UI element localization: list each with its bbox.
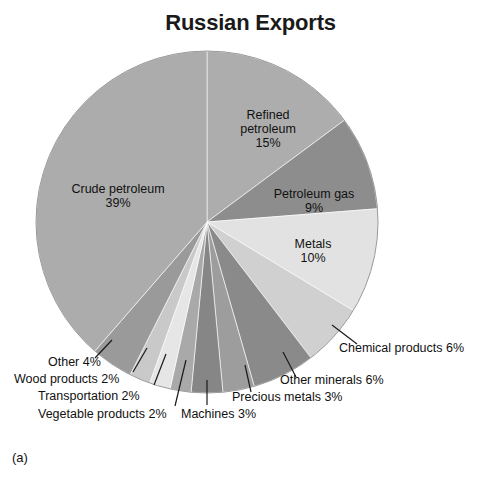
callout-label-transportation: Transportation 2% — [38, 389, 140, 403]
callout-label-precious-metals: Precious metals 3% — [232, 390, 342, 404]
slice-label-refined-petroleum-line2: petroleum — [240, 122, 296, 136]
slice-value-metals: 10% — [300, 251, 325, 265]
slice-value-crude-petroleum: 39% — [105, 196, 130, 210]
callout-label-machines: Machines 3% — [181, 407, 256, 421]
callout-label-wood-products: Wood products 2% — [14, 372, 119, 386]
slice-label-refined-petroleum-line1: Refined — [246, 108, 289, 122]
slice-label-petroleum-gas-name: Petroleum gas — [274, 187, 355, 201]
slice-label-metals: Metals 10% — [273, 237, 353, 265]
slice-value-petroleum-gas: 9% — [305, 201, 323, 215]
slice-label-metals-name: Metals — [295, 237, 332, 251]
callout-label-vegetable-products: Vegetable products 2% — [38, 407, 167, 421]
slice-value-refined-petroleum: 15% — [255, 136, 280, 150]
slice-label-petroleum-gas: Petroleum gas 9% — [253, 187, 375, 215]
pie-chart-figure: Russian Exports Crude petroleum 39% Refi… — [0, 0, 501, 483]
slice-label-refined-petroleum: Refined petroleum 15% — [212, 108, 324, 150]
pie-slice-group — [36, 51, 378, 393]
callout-label-other-minerals: Other minerals 6% — [280, 373, 384, 387]
slice-label-crude-petroleum-name: Crude petroleum — [71, 182, 164, 196]
slice-label-crude-petroleum: Crude petroleum 39% — [48, 182, 188, 210]
callout-label-chemical-products: Chemical products 6% — [339, 341, 464, 355]
panel-caption: (a) — [12, 450, 28, 465]
callout-label-other: Other 4% — [48, 355, 101, 369]
